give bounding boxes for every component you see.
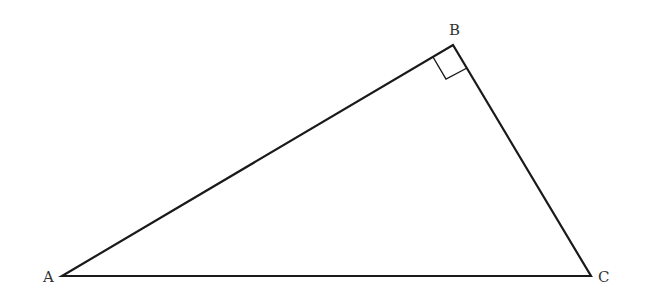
triangle-diagram: A B C <box>0 0 646 303</box>
vertex-label-a: A <box>42 268 54 286</box>
triangle-abc <box>62 45 591 276</box>
vertex-label-c: C <box>598 268 609 286</box>
vertex-label-b: B <box>449 21 460 39</box>
